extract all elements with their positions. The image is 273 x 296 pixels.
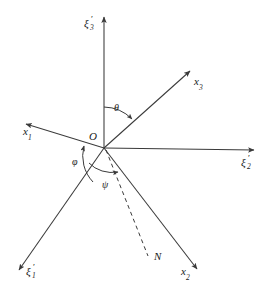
axis-label-x-2: x2	[181, 266, 190, 277]
angle-label-phi: φ	[72, 157, 78, 167]
angle-arc-psi	[89, 163, 118, 172]
origin-label: O	[89, 131, 97, 142]
axis-label-x-1: x1	[23, 126, 32, 137]
axis-label-xi-3-prime: ξ′3	[84, 18, 89, 29]
euler-angles-diagram: ξ′3 ξ′2 ξ′1 x1 x2 x3 O N θ φ ψ	[0, 0, 273, 296]
node-line-label: N	[154, 251, 161, 262]
angle-label-theta: θ	[114, 103, 119, 113]
axis-line-x-2	[104, 148, 197, 269]
axis-line-xi-2-prime	[104, 148, 254, 150]
diagram-canvas	[0, 0, 273, 296]
axis-line-xi-1-prime	[19, 148, 104, 270]
angle-label-psi: ψ	[102, 180, 108, 190]
axis-label-x-3: x3	[194, 76, 203, 87]
axis-label-xi-1-prime: ξ′1	[26, 266, 31, 277]
axis-label-xi-2-prime: ξ′2	[241, 157, 246, 168]
node-line-dashed	[106, 150, 148, 256]
